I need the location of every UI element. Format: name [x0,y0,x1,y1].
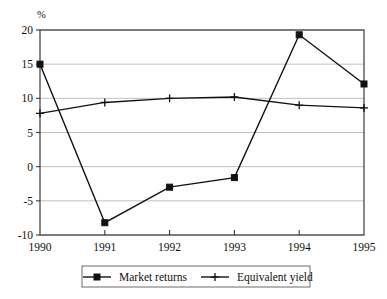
y-axis-unit-label: % [37,9,46,20]
data-point-marker-square [167,184,173,190]
data-point-marker-square [102,220,108,226]
data-point-marker-square [296,32,302,38]
y-axis-tick-label: 5 [27,127,33,139]
y-axis-tick-label: -5 [23,195,33,207]
legend-label: Equivalent yield [237,271,313,284]
legend-label: Market returns [119,271,188,283]
data-point-marker-square [37,61,43,67]
y-axis-tick-label: 10 [22,92,34,104]
y-axis-tick-label: 20 [22,24,34,36]
x-axis-tick-label: 1991 [93,241,116,253]
data-point-marker-square [231,175,237,181]
x-axis-tick-label: 1994 [288,241,311,253]
x-axis-tick-label: 1990 [29,241,52,253]
line-chart: % 20151050-5-10 199019911992199319941995… [0,0,387,299]
y-axis-tick-label: 0 [27,161,33,173]
chart-figure: % 20151050-5-10 199019911992199319941995… [0,0,387,299]
chart-background [0,0,387,299]
data-point-marker-square [94,274,100,280]
x-axis-tick-label: 1995 [353,241,376,253]
y-axis-tick-label: -10 [18,229,34,241]
y-axis-tick-label: 15 [22,58,34,70]
chart-legend: Market returnsEquivalent yield [82,266,313,287]
data-point-marker-square [361,81,367,87]
x-axis-tick-label: 1992 [158,241,181,253]
x-axis-tick-label: 1993 [223,241,246,253]
